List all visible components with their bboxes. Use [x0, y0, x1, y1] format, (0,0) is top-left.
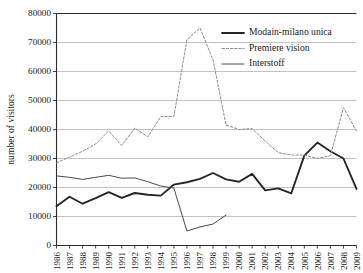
- x-axis-tick-label: 1987: [65, 252, 75, 271]
- x-axis-tick-label: 1991: [117, 252, 127, 270]
- x-axis-tick-label: 2003: [273, 252, 283, 271]
- y-axis-title: number of visitors: [5, 94, 16, 165]
- series-line-modain-milano-unica: [57, 143, 357, 207]
- x-axis-tick-label: 1990: [104, 252, 114, 271]
- y-axis-tick-label: 20000: [28, 182, 51, 192]
- y-axis-tick-label: 10000: [28, 211, 51, 221]
- y-axis-tick-label: 30000: [28, 153, 51, 163]
- y-axis-tick-label: 70000: [28, 37, 51, 47]
- legend-label: Premiere vision: [249, 42, 310, 53]
- x-axis-tick-label: 2006: [313, 252, 323, 271]
- x-axis-tick-label: 1986: [52, 252, 62, 271]
- x-axis-tick-label: 1995: [169, 252, 179, 271]
- y-axis-tick-labels-group: 0100002000030000400005000060000700008000…: [28, 8, 51, 250]
- legend: Modain-milano unicaPremiere visionInters…: [222, 26, 333, 68]
- x-axis-tick-label: 2007: [326, 252, 336, 271]
- x-axis-tick-label: 1999: [221, 252, 231, 271]
- x-axis-tick-label: 1988: [78, 252, 88, 271]
- x-axis-tick-label: 2001: [247, 252, 257, 270]
- x-axis-tick-label: 2004: [286, 252, 296, 271]
- series-line-premiere-vision: [57, 28, 357, 163]
- legend-label: Modain-milano unica: [249, 26, 333, 37]
- x-axis-tick-label: 1994: [156, 252, 166, 271]
- x-axis-tick-label: 1998: [208, 252, 218, 271]
- chart-container: 0100002000030000400005000060000700008000…: [0, 0, 363, 273]
- x-axis-tick-labels-group: 1986198719881989199019911992199319941995…: [52, 252, 362, 271]
- legend-label: Interstoff: [249, 57, 285, 68]
- y-axis-tick-label: 60000: [28, 66, 51, 76]
- y-axis-tick-label: 0: [46, 240, 51, 250]
- x-axis-tick-label: 2008: [339, 252, 349, 271]
- x-axis-tick-label: 1993: [143, 252, 153, 271]
- y-axis-tick-label: 50000: [28, 95, 51, 105]
- x-axis-tick-label: 1992: [130, 252, 140, 270]
- x-axis-tick-label: 1997: [195, 252, 205, 271]
- x-axis-tick-label: 1996: [182, 252, 192, 271]
- x-axis-tick-label: 1989: [91, 252, 101, 271]
- y-axis-tick-label: 80000: [28, 8, 51, 18]
- x-axis-tick-label: 2005: [300, 252, 310, 271]
- x-axis-tick-label: 2002: [260, 252, 270, 270]
- x-axis-tick-label: 2009: [352, 252, 362, 271]
- line-chart: 0100002000030000400005000060000700008000…: [0, 0, 363, 273]
- x-axis-tick-label: 2000: [234, 252, 244, 271]
- y-axis-tick-label: 40000: [28, 124, 51, 134]
